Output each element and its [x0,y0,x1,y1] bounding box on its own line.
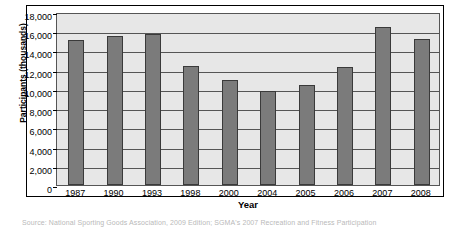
y-axis-tick-label: 0 [12,186,52,195]
x-axis-tick-label: 1987 [56,188,94,198]
bar [414,39,430,185]
y-axis-tick-label: 2,000 [12,167,52,176]
bar [375,27,391,185]
bar [68,40,84,185]
x-axis-tick-label: 1993 [133,188,171,198]
x-axis-tick-label: 2000 [210,188,248,198]
x-axis-tick-label: 2008 [402,188,440,198]
bars-group [57,14,439,185]
bar [183,66,199,185]
y-axis-tick-label: 8,000 [12,109,52,118]
y-axis-tick-label: 14,000 [12,51,52,60]
y-axis-tick-label: 12,000 [12,71,52,80]
x-axis-tick-label: 1990 [94,188,132,198]
bar [337,67,353,185]
plot-area [56,13,440,186]
bar [260,91,276,185]
y-axis-tick-label: 4,000 [12,148,52,157]
y-axis-tick-label: 18,000 [12,13,52,22]
x-axis-tick-label: 2007 [363,188,401,198]
x-axis-tick-label: 2006 [325,188,363,198]
y-axis-tick-label: 16,000 [12,32,52,41]
y-axis-tick-label: 6,000 [12,128,52,137]
bar [299,85,315,185]
x-axis-tick-label: 2005 [286,188,324,198]
bar [222,80,238,185]
y-axis-tick-labels: 18,00016,00014,00012,00010,0008,0006,000… [12,8,52,190]
x-axis-tick-label: 2004 [248,188,286,198]
x-axis-tick-label: 1998 [171,188,209,198]
bar [145,34,161,185]
x-axis-title: Year [56,199,440,210]
y-axis-tick-label: 10,000 [12,90,52,99]
bar-chart-figure: Participants (thousands) 18,00016,00014,… [0,0,450,227]
figure-caption: Source: National Sporting Goods Associat… [22,218,432,227]
bar [107,36,123,185]
